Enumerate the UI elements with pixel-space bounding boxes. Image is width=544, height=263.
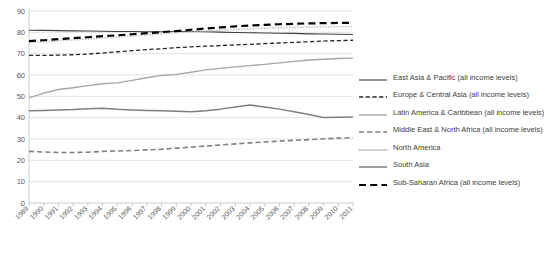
x-axis-tick-label: 2000 (176, 205, 192, 221)
chart-legend: East Asia & Pacific (all income levels)E… (358, 70, 541, 193)
x-axis-tick-label: 1995 (102, 205, 118, 221)
legend-item-label: North America (393, 144, 441, 152)
legend-item-label: Europe & Central Asia (all income levels… (393, 91, 529, 99)
legend-item[interactable]: Middle East & North Africa (all income l… (358, 123, 541, 138)
legend-item[interactable]: South Asia (358, 158, 541, 173)
x-axis-tick-label: 1989 (14, 205, 30, 221)
x-axis-tick-label: 1998 (146, 205, 162, 221)
legend-line-swatch-icon (358, 177, 388, 189)
legend-line-swatch-icon (358, 89, 388, 101)
legend-item-label: Latin America & Caribbean (all income le… (393, 109, 544, 117)
legend-item[interactable]: North America (358, 140, 541, 155)
legend-item-label: South Asia (393, 161, 429, 169)
series-line-3 (29, 138, 353, 153)
x-axis-tick-label: 1994 (87, 205, 103, 221)
x-axis-tick-label: 1990 (28, 205, 44, 221)
x-axis-tick-label: 2002 (205, 205, 221, 221)
legend-line-swatch-icon (358, 159, 388, 171)
legend-line-swatch-icon (358, 124, 388, 136)
x-axis-tick-label: 1991 (43, 205, 59, 221)
x-axis-tick-label: 2008 (294, 205, 310, 221)
legend-item-label: East Asia & Pacific (all income levels) (393, 74, 518, 82)
legend-line-swatch-icon (358, 107, 388, 119)
legend-line-swatch-icon (358, 72, 388, 84)
legend-item[interactable]: East Asia & Pacific (all income levels) (358, 70, 541, 85)
series-line-1 (29, 40, 353, 55)
y-axis-tick-label: 60 (17, 71, 25, 80)
y-axis-tick-label: 70 (17, 49, 25, 58)
y-axis-tick-label: 90 (17, 7, 25, 16)
x-axis-tick-label: 2001 (190, 205, 206, 221)
x-axis-tick-label: 1993 (73, 205, 89, 221)
x-axis-tick-label: 1999 (161, 205, 177, 221)
plot-svg: 0102030405060708090198919901991199219931… (0, 0, 360, 263)
x-axis-tick-label: 2010 (323, 205, 339, 221)
legend-item[interactable]: Latin America & Caribbean (all income le… (358, 105, 541, 120)
x-axis-tick-label: 1996 (117, 205, 133, 221)
y-axis-tick-label: 10 (17, 177, 25, 186)
x-axis-tick-label: 2009 (308, 205, 324, 221)
x-axis-tick-label: 1992 (58, 205, 74, 221)
x-axis-tick-label: 2011 (338, 205, 354, 221)
y-axis-tick-label: 20 (17, 156, 25, 165)
y-axis-tick-label: 30 (17, 135, 25, 144)
y-axis-tick-label: 80 (17, 28, 25, 37)
legend-item-label: Middle East & North Africa (all income l… (393, 126, 543, 134)
x-axis-tick-label: 2006 (264, 205, 280, 221)
x-axis-tick-label: 1997 (132, 205, 148, 221)
series-line-5 (29, 105, 353, 117)
x-axis-tick-label: 2003 (220, 205, 236, 221)
x-axis-tick-label: 2005 (249, 205, 265, 221)
legend-item-label: Sub-Saharan Africa (all income levels) (393, 179, 520, 187)
series-line-2 (29, 58, 353, 98)
y-axis-tick-label: 40 (17, 113, 25, 122)
legend-item[interactable]: Sub-Saharan Africa (all income levels) (358, 175, 541, 190)
legend-line-swatch-icon (358, 142, 388, 154)
plot-area: 0102030405060708090198919901991199219931… (0, 0, 360, 263)
x-axis-tick-label: 2007 (279, 205, 295, 221)
x-axis-tick-label: 2004 (235, 205, 251, 221)
legend-item[interactable]: Europe & Central Asia (all income levels… (358, 88, 541, 103)
y-axis-tick-label: 50 (17, 92, 25, 101)
